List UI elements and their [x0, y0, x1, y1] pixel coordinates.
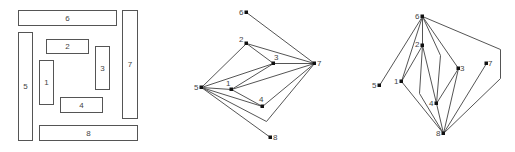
node-label: 4 [429, 99, 434, 108]
graph-node-7: 7 [485, 59, 494, 68]
rectangle-layout-panel: 65213748 [19, 11, 138, 141]
graph-node-6: 6 [239, 8, 248, 17]
graph-edge [232, 64, 315, 90]
layout-rect-5: 5 [19, 33, 33, 141]
layout-rect-6: 6 [19, 11, 117, 26]
rect-label: 7 [128, 60, 133, 69]
rect-label: 8 [86, 129, 91, 138]
graph-edge [437, 69, 459, 104]
graph-node-2: 2 [239, 35, 248, 45]
graph-edge [402, 46, 423, 82]
layout-rect-8: 8 [40, 126, 138, 141]
rect-label: 5 [23, 82, 28, 91]
graph-node-5: 5 [194, 83, 203, 92]
rect-label: 1 [44, 78, 49, 87]
layout-rect-7: 7 [123, 11, 138, 119]
layout-rect-2: 2 [47, 40, 89, 54]
graph-edge [247, 44, 274, 64]
graph-node-8: 8 [269, 133, 279, 142]
diagram-canvas: 65213748 62375148 62153748 [0, 0, 515, 152]
node-label: 2 [239, 35, 244, 44]
graph-node-5: 5 [372, 81, 381, 90]
node-label: 5 [372, 81, 377, 90]
graph-edge [380, 17, 423, 86]
layout-rect-1: 1 [40, 61, 54, 105]
node-label: 3 [274, 53, 279, 62]
graph-edge [402, 17, 423, 82]
graph-edge [247, 13, 315, 64]
node-label: 6 [415, 12, 420, 21]
node-label: 4 [259, 95, 264, 104]
node-label: 6 [239, 8, 244, 17]
graph-edge [423, 46, 437, 104]
node-label: 8 [273, 133, 278, 142]
layout-rect-3: 3 [96, 47, 110, 90]
layout-rect-4: 4 [61, 98, 103, 113]
graph-edge [202, 44, 247, 88]
node-label: 1 [226, 79, 231, 88]
graph-edge [247, 44, 315, 64]
dual-graph-panel: 62153748 [372, 12, 501, 138]
graph-edge [232, 64, 274, 90]
graph-edge [263, 64, 315, 107]
rect-label: 2 [65, 42, 70, 51]
rect-label: 4 [79, 101, 84, 110]
node-label: 3 [460, 64, 465, 73]
rect-label: 6 [65, 14, 70, 23]
graph-edge [202, 64, 274, 88]
node-label: 2 [415, 40, 420, 49]
node-label: 7 [317, 59, 322, 68]
node-label: 8 [436, 129, 441, 138]
node-label: 1 [394, 77, 399, 86]
graph-node-1: 1 [394, 77, 403, 86]
graph-edge [444, 69, 459, 134]
rect-label: 3 [100, 64, 105, 73]
graph-node-7: 7 [313, 59, 323, 68]
constraint-graph-panel: 62375148 [194, 8, 322, 142]
node-label: 7 [488, 59, 493, 68]
node-label: 5 [194, 83, 199, 92]
